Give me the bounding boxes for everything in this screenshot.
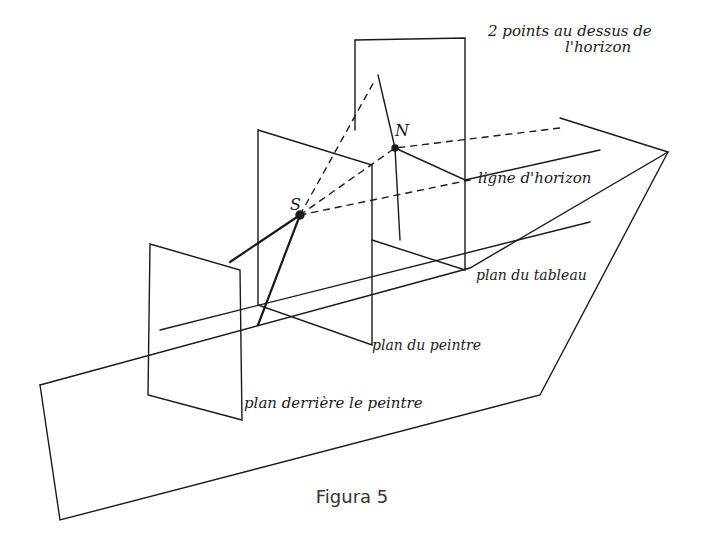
label-points-above-2: l'horizon bbox=[565, 38, 631, 56]
ground-edge-front bbox=[40, 118, 668, 385]
plane-painter bbox=[258, 130, 372, 345]
label-picture-plane: plan du tableau bbox=[476, 267, 587, 283]
point-n-dot bbox=[392, 145, 398, 151]
figure-caption: Figura 5 bbox=[0, 486, 704, 507]
label-horizon: ligne d'horizon bbox=[478, 169, 591, 187]
label-n: N bbox=[394, 121, 410, 140]
perspective-sketch: 2 points au dessus de l'horizon ligne d'… bbox=[0, 0, 704, 542]
projection-rays bbox=[300, 80, 560, 215]
label-s: S bbox=[290, 195, 301, 214]
plane-behind-painter bbox=[148, 244, 242, 420]
label-painter-plane: plan du peintre bbox=[372, 337, 481, 353]
label-behind-plane: plan derrière le peintre bbox=[244, 394, 423, 412]
